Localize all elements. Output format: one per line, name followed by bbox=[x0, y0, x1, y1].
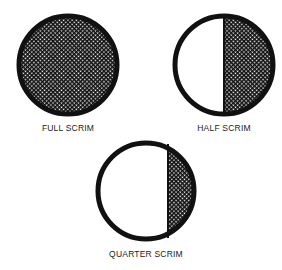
half-scrim-icon bbox=[175, 10, 282, 120]
full-scrim-icon bbox=[19, 16, 117, 114]
quarter-scrim-label: QUARTER SCRIM bbox=[109, 249, 183, 259]
half-scrim-label: HALF SCRIM bbox=[197, 123, 250, 133]
scrim-diagram bbox=[0, 0, 282, 270]
full-scrim-label: FULL SCRIM bbox=[42, 123, 94, 133]
quarter-scrim-icon bbox=[98, 136, 208, 246]
